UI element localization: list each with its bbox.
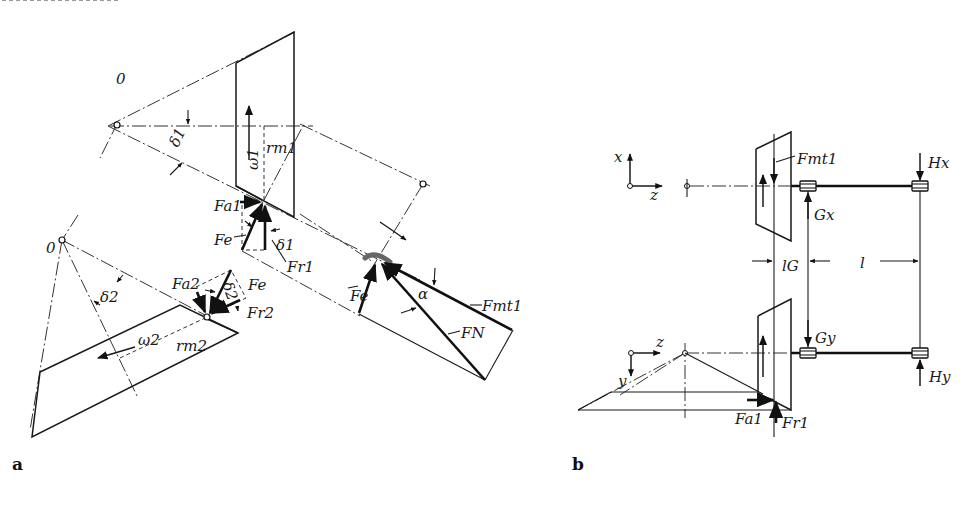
delta1-label: δ1 xyxy=(165,125,189,149)
gy-label: Gy xyxy=(815,329,836,347)
hx-label: Hx xyxy=(927,154,950,172)
fe-label-2: Fe xyxy=(247,276,267,294)
fn-label: FN xyxy=(460,324,485,342)
apex-2-label: 0 xyxy=(46,239,56,257)
omega2-arrow xyxy=(98,347,135,358)
rm2-label: rm2 xyxy=(176,337,207,355)
fe-label-3: Fe xyxy=(349,287,369,305)
l-label: l xyxy=(860,254,865,272)
delta2-arrow xyxy=(117,275,123,282)
hy-label: Hy xyxy=(928,368,951,386)
apex-1-label: 0 xyxy=(116,70,126,88)
delta1-label-small: δ1 xyxy=(276,236,295,254)
panel-b: x z Fmt1 Gx Hx xyxy=(572,132,951,474)
coord-system-xz xyxy=(628,154,663,189)
fa1-label-b: Fa1 xyxy=(734,410,763,428)
dimension-lines xyxy=(752,191,920,350)
bevel-gear-force-diagram: 0 δ1 ω1 rm1 Fa1 Fe δ1 Fr1 xyxy=(0,0,973,505)
top-gear-shaft xyxy=(685,132,929,437)
axis-z-label-bottom: z xyxy=(655,333,664,351)
panel-a: 0 δ1 ω1 rm1 Fa1 Fe δ1 Fr1 xyxy=(0,0,522,474)
fr1-label-b: Fr1 xyxy=(781,414,809,432)
omega2-label: ω2 xyxy=(138,331,160,349)
delta2-label-small: δ2 xyxy=(218,279,241,303)
axis-z-label-top: z xyxy=(649,186,658,204)
axis-y-label: y xyxy=(617,372,627,390)
delta2-label: δ2 xyxy=(100,288,119,306)
fmt1-label-b: Fmt1 xyxy=(796,150,837,168)
fr1-label: Fr1 xyxy=(286,258,314,276)
lg-label: lG xyxy=(782,257,799,275)
fmt1-label-a: Fmt1 xyxy=(481,297,522,315)
fe-label-1: Fe xyxy=(213,231,233,249)
rm1-label: rm1 xyxy=(266,139,297,157)
fa2-label: Fa2 xyxy=(171,275,200,293)
axis-x-label: x xyxy=(614,148,623,166)
panel-b-label: b xyxy=(572,454,584,474)
alpha-label: α xyxy=(418,285,428,303)
fa1-label: Fa1 xyxy=(213,197,242,215)
delta1-arrow-bottom xyxy=(170,163,182,175)
omega1-label: ω1 xyxy=(244,148,262,170)
fr2-label: Fr2 xyxy=(246,304,274,322)
panel-a-label: a xyxy=(12,454,23,474)
gx-label: Gx xyxy=(814,206,835,224)
gear-2-section xyxy=(0,0,238,437)
